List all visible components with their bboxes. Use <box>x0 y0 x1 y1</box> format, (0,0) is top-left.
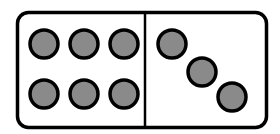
pip <box>188 58 216 86</box>
pip <box>110 80 138 108</box>
pip <box>70 30 98 58</box>
pip <box>70 80 98 108</box>
pip <box>110 30 138 58</box>
pip <box>30 30 58 58</box>
pip <box>218 83 246 111</box>
pip <box>158 30 186 58</box>
domino-stage <box>0 0 280 134</box>
domino-illustration <box>0 0 280 134</box>
pip <box>30 80 58 108</box>
